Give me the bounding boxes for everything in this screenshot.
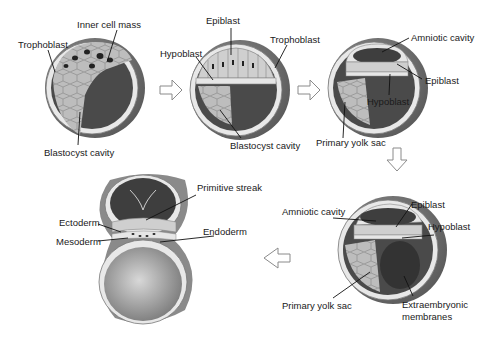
label-mesoderm: Mesoderm	[56, 237, 101, 247]
label-endoderm: Endoderm	[203, 227, 247, 237]
label-trophoblast: Trophoblast	[18, 40, 68, 50]
label-inner-cell-mass: Inner cell mass	[77, 20, 141, 30]
label-trophoblast: Trophoblast	[270, 35, 320, 45]
label-epiblast: Epiblast	[206, 16, 240, 26]
diagram-canvas	[0, 0, 493, 337]
stage-blastocyst	[45, 38, 145, 138]
arrow-right-icon	[298, 80, 320, 100]
label-primary-yolk-sac: Primary yolk sac	[316, 138, 386, 148]
label-hypoblast: Hypoblast	[367, 97, 409, 107]
label-hypoblast: Hypoblast	[428, 222, 470, 232]
stage-gastrulation	[99, 174, 193, 324]
label-blastocyst-cavity: Blastocyst cavity	[230, 141, 300, 151]
label-extraembryonic: Extraembryonic	[402, 300, 468, 310]
label-epiblast: Epiblast	[425, 76, 459, 86]
stage-bilaminar-early	[190, 40, 290, 140]
label-membranes: membranes	[402, 312, 452, 322]
label-primary-yolk-sac: Primary yolk sac	[282, 301, 352, 311]
arrow-down-icon	[387, 148, 407, 171]
label-ectoderm: Ectoderm	[59, 218, 100, 228]
stage-bilaminar-disc	[338, 196, 447, 304]
label-primitive-streak: Primitive streak	[197, 183, 262, 193]
stage-amnion-formation	[328, 38, 428, 138]
label-hypoblast: Hypoblast	[160, 49, 202, 59]
label-epiblast: Epiblast	[411, 200, 445, 210]
arrow-left-icon	[264, 248, 290, 268]
label-amniotic-cavity: Amniotic cavity	[282, 207, 345, 217]
label-amniotic-cavity: Amniotic cavity	[411, 33, 474, 43]
label-blastocyst-cavity: Blastocyst cavity	[44, 148, 114, 158]
arrow-right-icon	[160, 80, 182, 100]
